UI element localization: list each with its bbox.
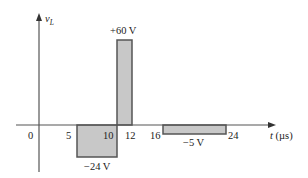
label-pos60: +60 V: [110, 25, 137, 36]
tick-10: 10: [103, 130, 114, 141]
pulse-neg5: [163, 125, 226, 134]
x-axis-arrow-icon: [268, 122, 276, 128]
y-axis-label: vL: [45, 13, 54, 27]
label-neg24: −24 V: [84, 161, 111, 172]
tick-24: 24: [228, 130, 239, 141]
tick-5: 5: [66, 130, 71, 141]
label-neg5: −5 V: [183, 137, 205, 148]
tick-16: 16: [150, 130, 161, 141]
tick-0: 0: [28, 130, 33, 141]
tick-12: 12: [125, 130, 136, 141]
waveform-chart: vL 0 5 10 12 16 24 t (µs) +60 V −24 V −5…: [0, 0, 308, 178]
pulse-pos60: [117, 40, 132, 125]
x-axis-label: t (µs): [270, 130, 293, 142]
y-axis-arrow-icon: [36, 13, 42, 21]
